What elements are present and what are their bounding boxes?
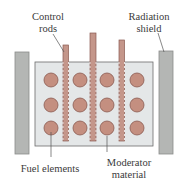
moderator-label-line2: material <box>112 169 146 180</box>
fuel-element <box>100 73 114 87</box>
control-rods-leader <box>53 34 64 52</box>
fuel-element <box>73 98 87 112</box>
fuel-element <box>130 98 144 112</box>
fuel-element <box>73 121 87 135</box>
fuel-element <box>100 121 114 135</box>
fuel-element <box>130 121 144 135</box>
radiation-shield-label-line2: shield <box>136 23 162 34</box>
fuel-element <box>44 98 58 112</box>
fuel-element <box>130 73 144 87</box>
control-rods-label-line1: Control <box>32 11 64 22</box>
fuel-element <box>44 73 58 87</box>
fuel-elements-label: Fuel elements <box>21 163 80 174</box>
moderator-label-line1: Moderator <box>107 157 152 168</box>
control-rod-2 <box>90 33 96 141</box>
radiation-shield-right <box>159 51 173 154</box>
control-rod-1 <box>63 45 69 141</box>
control-rods-label-line2: rods <box>39 23 57 34</box>
fuel-element <box>73 73 87 87</box>
fuel-element <box>100 98 114 112</box>
radiation-shield-left <box>15 52 29 154</box>
radiation-shield-label-line1: Radiation <box>129 11 171 22</box>
radiation-shield-leader <box>158 33 164 52</box>
control-rod-3 <box>119 40 125 141</box>
reactor-diagram: Control rods Radiation shield Fuel eleme… <box>0 0 187 189</box>
